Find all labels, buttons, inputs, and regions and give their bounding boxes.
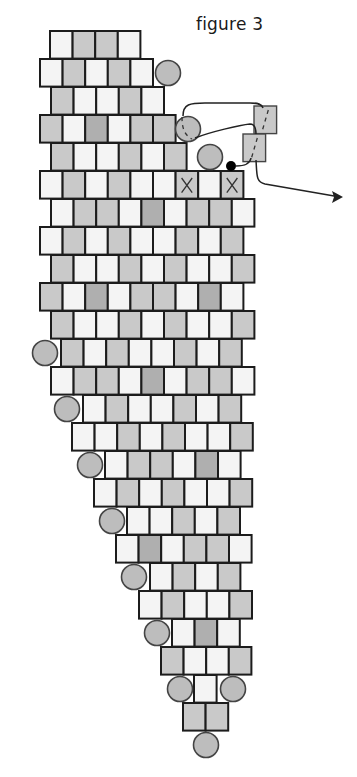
cylinder-bead (172, 507, 195, 535)
cylinder-bead (185, 423, 208, 451)
cylinder-bead (128, 451, 151, 479)
round-bead (221, 677, 246, 702)
bead-row (150, 563, 240, 591)
cylinder-bead (51, 311, 74, 339)
cylinder-bead (130, 171, 153, 199)
cylinder-bead (73, 31, 96, 59)
cylinder-bead (95, 31, 118, 59)
cylinder-bead (187, 255, 210, 283)
cylinder-bead (164, 255, 187, 283)
cylinder-bead (119, 367, 142, 395)
cylinder-bead (50, 31, 73, 59)
cylinder-bead (209, 367, 232, 395)
round-bead (122, 565, 147, 590)
cylinder-bead (162, 479, 185, 507)
round-bead (33, 341, 58, 366)
cylinder-bead (85, 171, 108, 199)
cylinder-bead (83, 395, 106, 423)
cylinder-bead (172, 619, 195, 647)
bead-row (105, 451, 241, 479)
bead-row (161, 647, 251, 675)
cylinder-bead (139, 591, 162, 619)
round-bead (156, 61, 181, 86)
cylinder-bead (72, 423, 95, 451)
cylinder-bead (164, 311, 187, 339)
cylinder-bead (130, 227, 153, 255)
cylinder-bead (197, 339, 220, 367)
thread-line (256, 160, 340, 197)
cylinder-bead (209, 311, 232, 339)
cylinder-bead (129, 339, 152, 367)
bead-row (183, 703, 228, 731)
cylinder-bead (51, 367, 74, 395)
cylinder-bead (108, 283, 131, 311)
bead-row (61, 339, 242, 367)
cylinder-bead (130, 59, 153, 87)
cylinder-bead (209, 199, 232, 227)
bead-row (116, 535, 252, 563)
cylinder-bead (51, 255, 74, 283)
cylinder-bead (127, 507, 150, 535)
cylinder-bead (184, 479, 207, 507)
round-bead (194, 733, 219, 758)
cylinder-bead (119, 255, 142, 283)
bead-row (194, 675, 217, 703)
cylinder-bead (208, 423, 231, 451)
cylinder-bead (51, 199, 74, 227)
cylinder-bead (187, 199, 210, 227)
cylinder-bead (221, 283, 244, 311)
cylinder-bead (119, 199, 142, 227)
round-bead (145, 621, 170, 646)
cylinder-bead (150, 563, 173, 591)
cylinder-bead (118, 31, 141, 59)
cylinder-bead (206, 703, 229, 731)
cylinder-bead (40, 171, 63, 199)
cylinder-bead (198, 283, 221, 311)
round-bead (100, 509, 125, 534)
bead-row (50, 31, 140, 59)
cylinder-bead (74, 255, 97, 283)
cylinder-bead (128, 395, 151, 423)
bead-row (51, 311, 254, 339)
cylinder-bead (108, 59, 131, 87)
cylinder-bead (219, 339, 242, 367)
round-bead (168, 677, 193, 702)
cylinder-bead (141, 143, 164, 171)
cylinder-bead (130, 115, 153, 143)
cylinder-bead (95, 423, 118, 451)
cylinder-bead (229, 591, 252, 619)
cylinder-bead (173, 451, 196, 479)
cylinder-bead (63, 59, 86, 87)
bead-row (51, 143, 187, 171)
cylinder-bead (117, 423, 140, 451)
cylinder-bead (153, 171, 176, 199)
cylinder-bead (85, 283, 108, 311)
cylinder-bead (51, 143, 74, 171)
cylinder-bead (218, 563, 241, 591)
cylinder-bead (119, 311, 142, 339)
cylinder-bead (139, 479, 162, 507)
bead-row (40, 115, 176, 143)
cylinder-bead (150, 507, 173, 535)
cylinder-bead (108, 227, 131, 255)
round-bead (55, 397, 80, 422)
cylinder-bead (232, 311, 255, 339)
cylinder-bead (195, 451, 218, 479)
bead-row (40, 227, 243, 255)
cylinder-bead (164, 143, 187, 171)
cylinder-bead (153, 283, 176, 311)
beading-diagram: figure 3 (0, 0, 357, 777)
cylinder-bead (161, 535, 184, 563)
cylinder-bead (96, 199, 119, 227)
cylinder-bead (140, 423, 163, 451)
cylinder-bead (230, 479, 253, 507)
cylinder-bead (106, 339, 129, 367)
cylinder-bead (74, 87, 97, 115)
cylinder-bead (162, 591, 185, 619)
cylinder-bead (176, 227, 199, 255)
cylinder-bead (51, 87, 74, 115)
bead-row (40, 59, 153, 87)
cylinder-bead (229, 647, 252, 675)
cylinder-bead (151, 339, 174, 367)
cylinder-bead (74, 367, 97, 395)
